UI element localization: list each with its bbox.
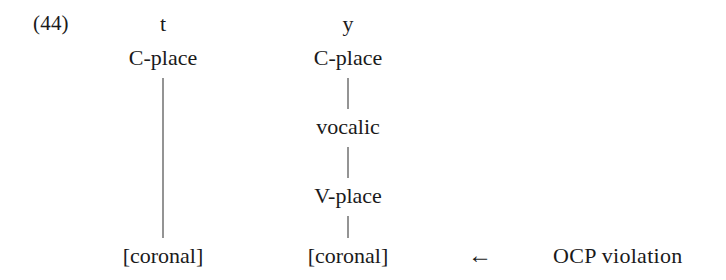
arrow-left-icon: ← — [468, 243, 492, 267]
segment-label-t: t — [160, 13, 166, 35]
node-right-vocalic: vocalic — [316, 116, 380, 138]
node-right-c-place: C-place — [314, 47, 382, 69]
annotation-ocp-violation: OCP violation — [553, 245, 683, 267]
autosegmental-tree-diagram: (44) t C-place [coronal] y C-place vocal… — [0, 0, 726, 280]
assoc-line-right-vocalic-to-vplace — [348, 147, 349, 178]
assoc-line-right-vplace-to-coronal — [348, 216, 349, 238]
example-number: (44) — [33, 13, 69, 34]
assoc-line-right-cplace-to-vocalic — [348, 78, 349, 109]
assoc-line-left-cplace-to-coronal — [163, 78, 164, 238]
segment-label-y: y — [343, 13, 354, 35]
node-right-v-place: V-place — [314, 185, 382, 207]
node-left-coronal: [coronal] — [123, 245, 204, 267]
node-left-c-place: C-place — [129, 47, 197, 69]
node-right-coronal: [coronal] — [308, 245, 389, 267]
